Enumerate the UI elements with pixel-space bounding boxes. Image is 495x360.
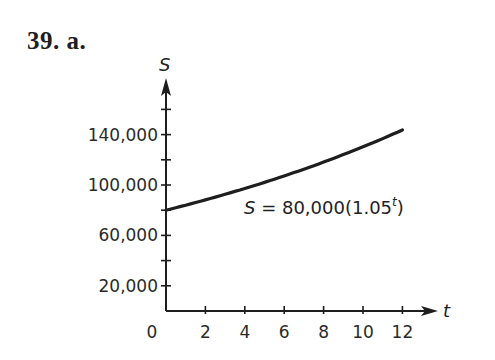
y-axis-label: S bbox=[159, 54, 170, 75]
x-tick-label: 4 bbox=[239, 322, 250, 342]
y-tick-label: 20,000 bbox=[99, 276, 158, 296]
x-tick-label: 0 bbox=[147, 322, 158, 342]
y-tick-label: 140,000 bbox=[88, 125, 158, 145]
equation-label: S = 80,000(1.05t) bbox=[244, 195, 404, 218]
x-tick-label: 6 bbox=[279, 322, 290, 342]
x-tick-label: 10 bbox=[352, 322, 374, 342]
x-tick-label: 8 bbox=[318, 322, 329, 342]
x-axis-label: t bbox=[443, 300, 451, 321]
x-tick-label: 12 bbox=[392, 322, 414, 342]
x-tick-label: 2 bbox=[200, 322, 211, 342]
equation-body: 80,000(1.05 bbox=[282, 197, 392, 218]
equation-lhs: S bbox=[244, 197, 255, 218]
tick-labels: 02468101220,00060,000100,000140,000 bbox=[88, 125, 414, 342]
y-tick-label: 100,000 bbox=[88, 175, 158, 195]
equation-close: ) bbox=[397, 197, 404, 218]
exponential-growth-chart: 02468101220,00060,000100,000140,000 S = … bbox=[0, 0, 495, 360]
equation-eq: = bbox=[255, 197, 282, 218]
y-tick-label: 60,000 bbox=[99, 225, 158, 245]
